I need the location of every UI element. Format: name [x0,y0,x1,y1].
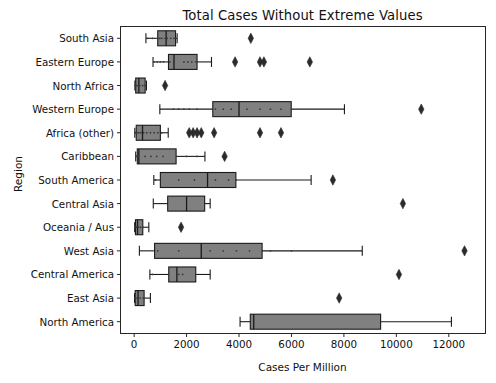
data-point [173,37,175,39]
box-group [134,78,167,93]
data-point [188,108,190,110]
data-point [156,155,158,157]
data-point [230,108,232,110]
data-point [235,179,237,181]
data-point [153,132,155,134]
data-point [161,37,163,39]
box-group [139,243,467,258]
data-point [153,61,155,63]
data-point [152,37,154,39]
box-group [153,196,405,211]
data-point [280,108,282,110]
data-point [144,155,146,157]
data-point [270,108,272,110]
x-tick-label: 10000 [380,338,413,350]
x-tick-label: 2000 [173,338,199,350]
x-tick-label: 4000 [226,338,252,350]
outlier-marker [307,57,312,67]
outlier-marker [211,128,216,138]
data-point [136,85,138,87]
outlier-marker [261,57,266,67]
data-point [163,61,165,63]
data-point [183,108,185,110]
box-group [146,31,254,46]
outlier-marker [462,246,467,256]
outlier-marker [199,128,204,138]
x-tick-label: 12000 [432,338,465,350]
data-point [137,155,139,157]
data-point [187,61,189,63]
data-point [178,250,180,252]
x-axis-label: Cases Per Million [120,361,485,373]
outlier-marker [419,104,424,114]
data-point [196,155,198,157]
data-point [147,37,149,39]
data-point [164,37,166,39]
box-group [154,173,336,188]
box-group [136,149,228,164]
data-point [238,108,240,110]
data-point [249,250,251,252]
box-rect [250,314,380,329]
data-point [155,179,157,181]
data-point [136,132,138,134]
data-point [149,132,151,134]
data-point [136,155,138,157]
data-point [159,61,161,63]
outlier-marker [162,80,167,90]
data-point [259,108,261,110]
data-point [195,61,197,63]
data-point [161,132,163,134]
box-rect [136,125,160,140]
data-point [175,37,177,39]
data-point [156,61,158,63]
data-point [157,132,159,134]
data-point [215,179,217,181]
outlier-marker [222,151,227,161]
box-group [153,54,313,69]
box-group [134,220,184,235]
outlier-marker [232,57,237,67]
outlier-marker [330,175,335,185]
outlier-marker [257,128,262,138]
outlier-marker [178,222,183,232]
outlier-marker [278,128,283,138]
box-rect [213,102,291,117]
box-group [134,125,283,140]
data-point [173,61,175,63]
outlier-marker [248,33,253,43]
box-rect [160,173,236,188]
data-point [209,250,211,252]
box-rect [155,243,263,258]
data-point [170,37,172,39]
data-point [150,155,152,157]
data-point [228,179,230,181]
data-point [182,274,184,276]
data-point [196,108,198,110]
data-point [139,85,141,87]
data-point [140,226,142,228]
data-point [157,250,159,252]
x-tick-label: 0 [131,338,138,350]
data-point [222,250,224,252]
data-point [222,108,224,110]
data-point [186,155,188,157]
data-point [246,108,248,110]
data-point [135,297,137,299]
box-group [240,314,451,329]
box-plot-figure: Total Cases Without Extreme Values Regio… [0,0,496,383]
data-point [142,226,144,228]
data-point [137,85,139,87]
data-point [291,250,293,252]
data-point [162,155,164,157]
x-tick-label: 6000 [278,338,304,350]
data-point [144,85,146,87]
data-point [178,108,180,110]
data-point [166,37,168,39]
data-point [191,61,193,63]
outlier-marker [400,198,405,208]
data-point [138,132,140,134]
data-point [143,132,145,134]
box-group [160,102,424,117]
data-point [173,108,175,110]
